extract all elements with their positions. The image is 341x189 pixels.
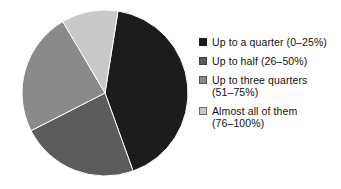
- legend-swatch-icon: [199, 57, 207, 65]
- pie-slices: [22, 10, 188, 176]
- legend-swatch-icon: [199, 107, 207, 115]
- pie-chart-plot-area: [17, 5, 197, 185]
- chart-legend: Up to a quarter (0–25%) Up to half (26–5…: [199, 36, 339, 136]
- legend-item-label: Up to half (26–50%): [212, 55, 307, 67]
- legend-item-up-to-three-quarters[interactable]: Up to three quarters (51–75%): [199, 74, 339, 98]
- legend-item-up-to-half[interactable]: Up to half (26–50%): [199, 55, 339, 67]
- pie-svg: [17, 5, 197, 185]
- legend-swatch-icon: [199, 38, 207, 46]
- pie-chart-figure: Up to a quarter (0–25%) Up to half (26–5…: [0, 0, 341, 189]
- legend-item-label: Up to a quarter (0–25%): [212, 36, 327, 48]
- legend-item-almost-all-of-them[interactable]: Almost all of them (76–100%): [199, 105, 339, 129]
- legend-item-label: Almost all of them (76–100%): [212, 105, 297, 129]
- legend-item-label: Up to three quarters (51–75%): [212, 74, 307, 98]
- legend-item-up-to-a-quarter[interactable]: Up to a quarter (0–25%): [199, 36, 339, 48]
- legend-swatch-icon: [199, 76, 207, 84]
